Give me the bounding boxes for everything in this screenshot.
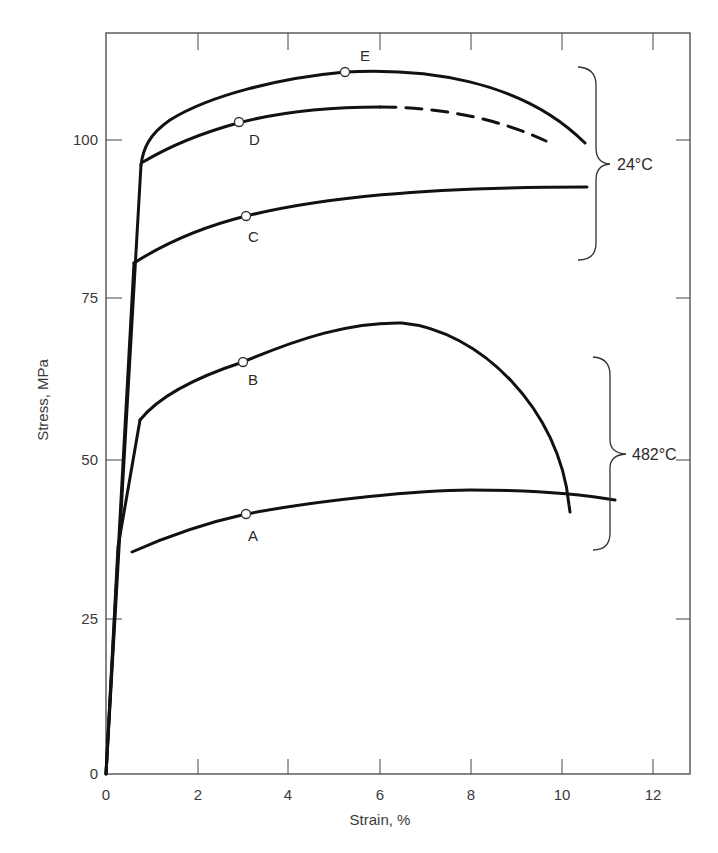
x-tick-label: 4	[284, 786, 292, 803]
y-tick-label: 75	[81, 289, 98, 306]
marker-c	[242, 212, 251, 221]
curve-a	[132, 490, 615, 552]
brace-24c	[578, 67, 610, 260]
curve-b	[140, 323, 570, 512]
marker-a	[242, 510, 251, 519]
label-24c: 24°C	[617, 156, 653, 173]
label-c: C	[248, 228, 259, 245]
y-tick-label: 25	[81, 610, 98, 627]
label-482c: 482°C	[632, 446, 677, 463]
y-ticks-right	[676, 140, 690, 619]
marker-d	[235, 118, 244, 127]
stress-strain-chart: 0 2 4 6 8 10 12 0 25 50 75 100 Strain, %…	[0, 0, 718, 853]
x-ticks-top	[198, 33, 653, 50]
x-tick-label: 6	[376, 786, 384, 803]
y-tick-label: 100	[73, 131, 98, 148]
x-tick-label: 8	[467, 786, 475, 803]
label-a: A	[248, 527, 258, 544]
x-tick-label: 10	[554, 786, 571, 803]
x-tick-label: 0	[102, 786, 110, 803]
curves	[106, 71, 615, 774]
marker-e	[341, 68, 350, 77]
plot-frame	[106, 33, 690, 774]
x-tick-label: 2	[194, 786, 202, 803]
x-tick-label: 12	[645, 786, 662, 803]
curve-c	[134, 187, 587, 263]
brace-482c	[593, 357, 626, 550]
y-axis-title: Stress, MPa	[34, 358, 51, 440]
label-d: D	[249, 131, 260, 148]
y-tick-label: 50	[81, 451, 98, 468]
x-ticks-bottom	[198, 759, 653, 774]
y-tick-label: 0	[90, 765, 98, 782]
curve-e	[141, 71, 585, 165]
label-e: E	[360, 47, 370, 64]
curve-d-dashed	[380, 107, 546, 141]
marker-b	[239, 358, 248, 367]
label-b: B	[248, 371, 258, 388]
x-axis-title: Strain, %	[350, 811, 411, 828]
